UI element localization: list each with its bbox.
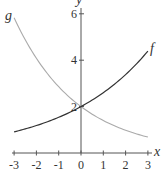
y-axis-label: y	[74, 0, 83, 7]
x-tick-label: 0	[78, 158, 84, 172]
x-tick-label: -1	[54, 158, 64, 172]
y-tick-label: 4	[71, 53, 77, 67]
y-tick-label: 6	[71, 7, 77, 21]
x-tick-label: -2	[31, 158, 41, 172]
y-ticks: 246	[71, 7, 84, 114]
x-ticks: -3-2-10123	[9, 151, 151, 173]
x-tick-label: -3	[9, 158, 19, 172]
curve-label-f: f	[150, 41, 156, 56]
axes	[12, 8, 152, 153]
curve-label-g: g	[5, 8, 12, 23]
x-tick-label: 2	[123, 158, 129, 172]
exponential-chart: -3-2-10123 246 x y g f	[0, 0, 165, 176]
x-tick-label: 1	[100, 158, 106, 172]
x-axis-label: x	[153, 144, 161, 159]
x-tick-label: 3	[145, 158, 151, 172]
